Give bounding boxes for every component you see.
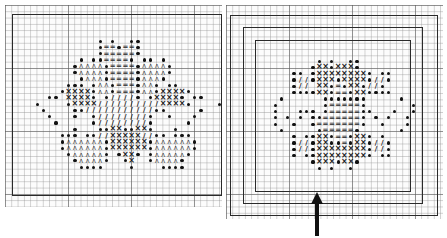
stitch-cell bbox=[316, 165, 322, 171]
stitch-cell bbox=[379, 121, 385, 127]
stitch-cell bbox=[291, 153, 297, 159]
stitch-cell bbox=[385, 115, 391, 121]
stitch-cell bbox=[198, 95, 204, 101]
stitch-cell bbox=[411, 108, 417, 114]
stitch-cell bbox=[179, 164, 185, 170]
stitch-cell bbox=[198, 107, 204, 113]
stitch-cell bbox=[348, 165, 354, 171]
stitch-cell bbox=[297, 115, 303, 121]
stitch-cell bbox=[398, 96, 404, 102]
stitch-cell bbox=[103, 158, 109, 164]
stitch-cell bbox=[166, 114, 172, 120]
stitch-cell bbox=[53, 95, 59, 101]
stitch-cell bbox=[166, 70, 172, 76]
stitch-cell bbox=[135, 151, 141, 157]
stitch-cell bbox=[278, 127, 284, 133]
stitch-cell bbox=[192, 114, 198, 120]
stitch-cell bbox=[185, 151, 191, 157]
stitch-cell bbox=[291, 121, 297, 127]
stitch-cell bbox=[385, 153, 391, 159]
stitch-cell bbox=[278, 96, 284, 102]
stitch-cell bbox=[329, 165, 335, 171]
stitch-cell bbox=[185, 101, 191, 107]
stitch-cell bbox=[392, 108, 398, 114]
stitch-cell bbox=[72, 114, 78, 120]
stitch-cell bbox=[97, 164, 103, 170]
stitch-cell bbox=[217, 101, 223, 107]
arrow-up-icon bbox=[309, 190, 325, 238]
stitch-cell bbox=[129, 164, 135, 170]
stitch-cell bbox=[192, 145, 198, 151]
stitch-cell bbox=[398, 127, 404, 133]
stitch-cell bbox=[385, 90, 391, 96]
stitch-cell bbox=[185, 120, 191, 126]
stitch-cell bbox=[385, 77, 391, 83]
stitch-cell bbox=[354, 159, 360, 165]
stitch-cell bbox=[53, 120, 59, 126]
stitch-cell bbox=[360, 121, 366, 127]
stitch-cell bbox=[367, 153, 373, 159]
stitch-cell bbox=[404, 121, 410, 127]
